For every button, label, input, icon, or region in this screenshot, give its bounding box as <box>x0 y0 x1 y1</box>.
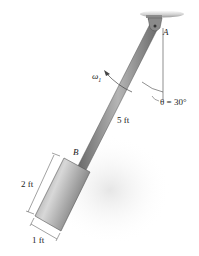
omega-subscript: 1 <box>98 77 101 83</box>
angle-leader <box>152 96 159 101</box>
omega-arrowhead <box>104 70 110 76</box>
cylinder-length-label: 2 ft <box>21 180 33 189</box>
angle-arc <box>142 82 163 92</box>
pendulum-diagram <box>0 0 199 256</box>
pivot-label-a: A <box>163 28 169 37</box>
angle-label: θ = 30° <box>160 98 187 107</box>
joint-label-b: B <box>73 148 79 157</box>
pivot-pin <box>154 25 157 28</box>
cylinder-width-label: 1 ft <box>32 236 44 245</box>
omega-label: ω1 <box>92 72 101 83</box>
rod-length-label: 5 ft <box>117 116 129 125</box>
